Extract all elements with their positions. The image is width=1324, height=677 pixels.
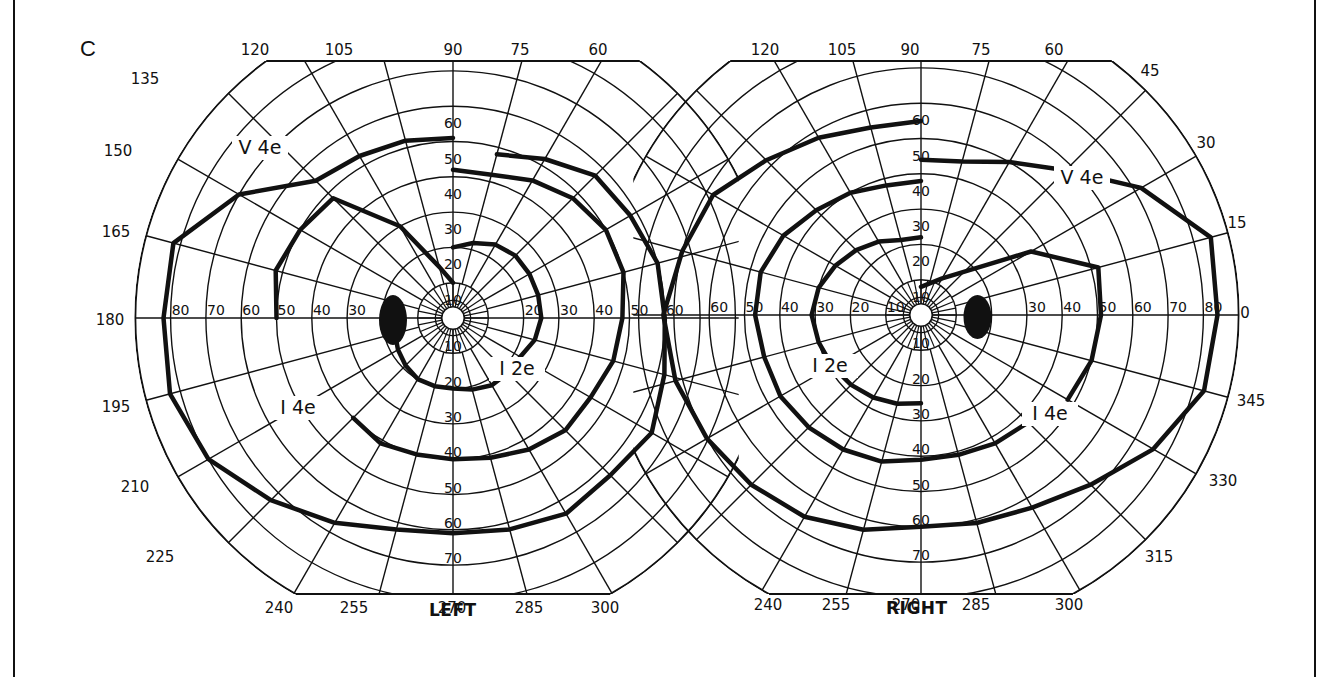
meridian-label: 15 <box>1227 214 1246 232</box>
axis-tick-label: 60 <box>242 302 260 318</box>
isopter-label: I 2e <box>812 354 847 376</box>
axis-tick-label: 30 <box>348 302 366 318</box>
right-eye-label: RIGHT <box>886 598 948 618</box>
axis-tick-label: 60 <box>912 112 930 128</box>
axis-tick-label: 80 <box>172 302 190 318</box>
meridian-label: 255 <box>822 596 851 614</box>
axis-tick-label: 60 <box>444 115 462 131</box>
meridian-label: 105 <box>828 41 857 59</box>
axis-tick-label: 60 <box>1134 299 1152 315</box>
axis-tick-label: 10 <box>444 292 462 308</box>
meridian-label: 210 <box>121 478 150 496</box>
axis-tick-label: 10 <box>444 338 462 354</box>
isopter-label: I 4e <box>1032 402 1067 424</box>
axis-tick-label: 50 <box>746 299 764 315</box>
isopter-v-4e <box>663 121 1217 530</box>
axis-tick-label: 30 <box>560 302 578 318</box>
axis-tick-label: 30 <box>912 218 930 234</box>
axis-tick-label: 10 <box>912 335 930 351</box>
left-eye-chart: 8070605040302020304050601020304050601020… <box>135 0 770 635</box>
isopter-label: V 4e <box>239 136 282 158</box>
left-eye-label: LEFT <box>429 600 477 620</box>
axis-tick-label: 60 <box>444 515 462 531</box>
meridian-label: 135 <box>131 70 160 88</box>
meridian-label: 285 <box>515 599 544 617</box>
axis-tick-label: 70 <box>912 547 930 563</box>
fixation-center <box>910 304 933 327</box>
axis-tick-label: 30 <box>444 409 462 425</box>
axis-tick-label: 20 <box>525 302 543 318</box>
meridian-label: 105 <box>325 41 354 59</box>
axis-tick-label: 40 <box>444 186 462 202</box>
axis-tick-label: 60 <box>912 512 930 528</box>
axis-tick-label: 50 <box>444 480 462 496</box>
meridian-label: 165 <box>102 223 131 241</box>
meridian-label: 75 <box>971 41 990 59</box>
axis-tick-label: 10 <box>887 299 905 315</box>
axis-tick-label: 70 <box>207 302 225 318</box>
axis-tick-label: 50 <box>912 148 930 164</box>
meridian-label: 90 <box>900 41 919 59</box>
axis-tick-label: 30 <box>816 299 834 315</box>
meridian-label: 75 <box>510 41 529 59</box>
meridian-label: 120 <box>241 41 270 59</box>
meridian-label: 60 <box>1044 41 1063 59</box>
meridian-label: 345 <box>1237 392 1266 410</box>
right-eye-chart: 6050403020103040506070801020304050601020… <box>603 0 1238 633</box>
meridian-label: 330 <box>1209 472 1238 490</box>
axis-tick-label: 30 <box>1028 299 1046 315</box>
meridian-label: 60 <box>588 41 607 59</box>
meridian-label: 45 <box>1140 62 1159 80</box>
axis-tick-label: 50 <box>1099 299 1117 315</box>
axis-tick-label: 20 <box>851 299 869 315</box>
axis-tick-label: 50 <box>278 302 296 318</box>
axis-tick-label: 60 <box>710 299 728 315</box>
axis-tick-label: 50 <box>444 151 462 167</box>
isopter-label: I 4e <box>280 396 315 418</box>
meridian-label: 240 <box>265 599 294 617</box>
axis-tick-label: 40 <box>781 299 799 315</box>
axis-tick-label: 40 <box>1063 299 1081 315</box>
axis-tick-label: 40 <box>912 183 930 199</box>
meridian-label: 30 <box>1196 134 1215 152</box>
meridian-label: 180 <box>96 311 125 329</box>
isopter-label: V 4e <box>1061 166 1104 188</box>
meridian-label: 225 <box>146 548 175 566</box>
axis-tick-label: 70 <box>444 550 462 566</box>
meridian-label: 150 <box>104 142 133 160</box>
axis-tick-label: 30 <box>912 406 930 422</box>
meridian-label: 240 <box>754 596 783 614</box>
polar-grid <box>135 0 770 635</box>
axis-tick-label: 40 <box>313 302 331 318</box>
fixation-center <box>442 307 465 330</box>
visual-field-figure: 8070605040302020304050601020304050601020… <box>0 0 1324 677</box>
axis-tick-label: 40 <box>912 441 930 457</box>
meridian-label: 315 <box>1145 548 1174 566</box>
meridian-label: 255 <box>340 599 369 617</box>
axis-tick-label: 40 <box>444 444 462 460</box>
meridian-label: 300 <box>591 599 620 617</box>
axis-tick-label: 10 <box>912 289 930 305</box>
meridian-label: 285 <box>962 596 991 614</box>
axis-tick-label: 20 <box>444 374 462 390</box>
polar-grid <box>603 0 1238 633</box>
axis-tick-label: 50 <box>912 477 930 493</box>
axis-tick-label: 40 <box>595 302 613 318</box>
meridian-label: 120 <box>751 41 780 59</box>
meridian-label: 0 <box>1240 304 1250 322</box>
meridian-label: 195 <box>102 398 131 416</box>
axis-tick-label: 70 <box>1169 299 1187 315</box>
meridian-label: 300 <box>1055 596 1084 614</box>
axis-tick-label: 20 <box>912 253 930 269</box>
panel-label: C <box>80 36 96 62</box>
axis-tick-label: 30 <box>444 221 462 237</box>
meridian-label: 90 <box>443 41 462 59</box>
axis-tick-label: 20 <box>912 371 930 387</box>
axis-tick-label: 80 <box>1204 299 1222 315</box>
axis-tick-label: 20 <box>444 256 462 272</box>
isopter-v-4e <box>164 138 665 533</box>
perimetry-charts: 8070605040302020304050601020304050601020… <box>0 0 1324 677</box>
axis-tick-label: 20 <box>383 302 401 318</box>
isopter-label: I 2e <box>499 357 534 379</box>
blind-spot <box>963 295 991 339</box>
